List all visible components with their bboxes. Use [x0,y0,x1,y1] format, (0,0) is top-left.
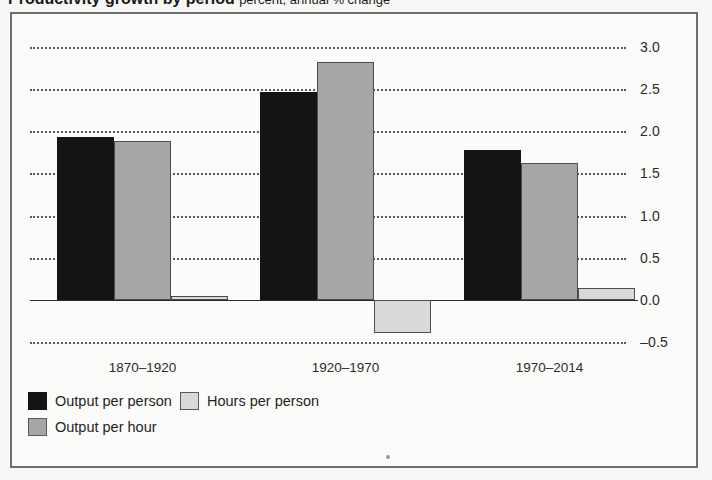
legend-row-1: Output per person Hours per person [28,392,588,418]
bar-hours-per-person-1870-1920 [171,296,228,300]
legend-label-output-per-person: Output per person [55,393,172,409]
bar-output-per-hour-1870-1920 [114,141,171,299]
zero-baseline [30,300,638,301]
bar-hours-per-person-1920-1970 [374,300,431,333]
y-tick-label--0.5: –0.5 [640,334,668,350]
x-category-label-1920-1970: 1920–1970 [312,360,380,375]
gridline-3.0 [30,47,626,49]
bar-output-per-hour-1970-2014 [521,163,578,300]
legend-swatch-icon-output-per-person [28,392,47,410]
bar-output-per-hour-1920-1970 [317,62,374,300]
bar-output-per-person-1870-1920 [57,137,114,300]
x-category-label-1870-1920: 1870–1920 [109,360,177,375]
legend-item-output-per-person: Output per person [28,392,172,410]
y-tick-label-2.5: 2.5 [640,81,660,97]
legend-item-hours-per-person: Hours per person [180,392,319,410]
page-speck [386,455,390,459]
plot-area: 3.02.52.01.51.00.50.0–0.5 [12,14,696,352]
legend-swatch-icon-output-per-hour [28,418,47,436]
y-tick-label-1.5: 1.5 [640,165,660,181]
legend-label-output-per-hour: Output per hour [55,419,157,435]
legend-swatch-icon-hours-per-person [180,392,199,410]
y-tick-label-0.0: 0.0 [640,292,660,308]
bar-hours-per-person-1970-2014 [578,288,635,300]
chart-title: Productivity growth by period percent, a… [8,0,708,10]
bar-output-per-person-1970-2014 [464,150,521,300]
y-tick-label-2.0: 2.0 [640,123,660,139]
gridline--0.5 [30,342,626,344]
chart-legend: Output per person Hours per person Outpu… [28,392,588,444]
bar-output-per-person-1920-1970 [260,92,317,300]
chart-figure: Productivity growth by period percent, a… [0,0,712,480]
y-tick-label-0.5: 0.5 [640,250,660,266]
chart-title-main: Productivity growth by period [8,0,235,7]
legend-label-hours-per-person: Hours per person [207,393,319,409]
legend-row-2: Output per hour [28,418,588,444]
x-category-label-1970-2014: 1970–2014 [516,360,584,375]
y-tick-label-3.0: 3.0 [640,39,660,55]
legend-item-output-per-hour: Output per hour [28,418,157,436]
chart-title-suffix: percent, annual % change [239,0,390,7]
y-tick-label-1.0: 1.0 [640,208,660,224]
